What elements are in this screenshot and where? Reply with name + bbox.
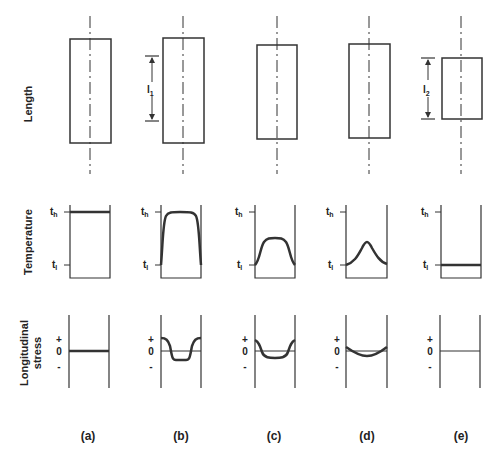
temp-box-e bbox=[441, 205, 481, 278]
zero-label-e: 0 bbox=[427, 346, 433, 357]
th-label-d: th bbox=[326, 206, 334, 218]
thermal-stress-diagram: Length Temperature Longitudinal stress bbox=[0, 0, 502, 462]
zero-label-d: 0 bbox=[334, 346, 340, 357]
l2-label: l2 bbox=[423, 84, 430, 97]
caption-e: (e) bbox=[454, 429, 469, 443]
zero-label-a: 0 bbox=[56, 346, 62, 357]
caption-a: (a) bbox=[81, 429, 96, 443]
minus-label-d: - bbox=[335, 361, 338, 372]
plus-label-a: + bbox=[56, 334, 62, 345]
caption-b: (b) bbox=[173, 429, 188, 443]
th-label-b: th bbox=[141, 206, 149, 218]
minus-label-a: - bbox=[57, 361, 60, 372]
th-label-c: th bbox=[235, 206, 243, 218]
stress-profile-b bbox=[161, 338, 201, 360]
temp-box-c bbox=[255, 205, 295, 278]
tl-label-c: tl bbox=[237, 259, 242, 271]
temperature-row bbox=[64, 205, 481, 278]
zero-label-c: 0 bbox=[242, 346, 248, 357]
tl-label-d: tl bbox=[328, 259, 333, 271]
specimen-e bbox=[442, 58, 482, 119]
tl-label-b: tl bbox=[143, 259, 148, 271]
temp-axis-labels: th tl th tl th tl th tl th tl bbox=[50, 206, 429, 271]
row-label-stress-2: stress bbox=[31, 337, 43, 369]
arrowhead-icon bbox=[149, 114, 155, 120]
th-label-e: th bbox=[421, 206, 429, 218]
plus-label-b: + bbox=[148, 334, 154, 345]
length-row bbox=[70, 16, 482, 174]
row-label-length: Length bbox=[22, 85, 34, 122]
l1-label: l1 bbox=[147, 84, 154, 97]
temp-box-a bbox=[70, 205, 110, 278]
th-label-a: th bbox=[50, 206, 58, 218]
temp-profile-d bbox=[346, 242, 387, 265]
temp-profile-b bbox=[161, 212, 201, 265]
plus-label-d: + bbox=[334, 334, 340, 345]
tl-label-e: tl bbox=[423, 259, 428, 271]
arrowhead-icon bbox=[425, 59, 431, 65]
temp-profile-c bbox=[255, 238, 295, 265]
caption-d: (d) bbox=[359, 429, 374, 443]
stress-profile-c bbox=[255, 340, 295, 358]
minus-label-e: - bbox=[428, 361, 431, 372]
stress-row bbox=[69, 315, 480, 388]
arrowhead-icon bbox=[149, 57, 155, 63]
row-label-temperature: Temperature bbox=[22, 209, 34, 275]
caption-c: (c) bbox=[267, 429, 282, 443]
tl-label-a: tl bbox=[52, 259, 57, 271]
zero-label-b: 0 bbox=[148, 346, 154, 357]
plus-label-c: + bbox=[242, 334, 248, 345]
dimension-arrowheads bbox=[149, 57, 431, 120]
minus-label-c: - bbox=[243, 361, 246, 372]
minus-label-b: - bbox=[149, 361, 152, 372]
row-label-stress-1: Longitudinal bbox=[18, 320, 30, 386]
plus-label-e: + bbox=[427, 334, 433, 345]
arrowhead-icon bbox=[425, 112, 431, 118]
